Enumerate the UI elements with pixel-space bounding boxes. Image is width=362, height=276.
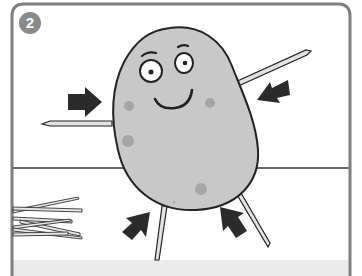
potato-speck	[173, 201, 175, 203]
left-pupil	[149, 70, 154, 75]
illustration-canvas	[0, 0, 362, 276]
potato-spot	[195, 183, 207, 195]
step-number-badge: 2	[19, 12, 41, 34]
left-arm-arrow-icon	[68, 87, 102, 117]
right-pupil	[183, 61, 188, 66]
right-leg-arrow-icon	[220, 207, 247, 238]
left-leg-arrow-icon	[122, 212, 150, 240]
potato-spot	[124, 101, 134, 111]
left-leg-toothpick	[155, 206, 167, 260]
toothpick-pile	[13, 197, 82, 239]
left-arm-toothpick	[42, 121, 112, 126]
right-arm-arrow-icon	[257, 80, 290, 103]
potato-spot	[205, 98, 215, 108]
potato-spot	[122, 135, 134, 147]
bottom-band	[13, 260, 349, 276]
